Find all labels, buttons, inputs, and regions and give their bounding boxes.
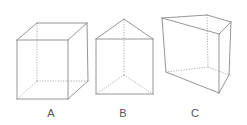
hidden-edge [124, 75, 153, 94]
visible-edge [219, 22, 231, 34]
visible-edge [229, 22, 231, 75]
visible-edge [207, 15, 231, 22]
visible-edge [17, 23, 37, 40]
visible-edge [219, 75, 229, 93]
label-a: A [41, 106, 61, 120]
visible-edge [68, 81, 88, 99]
visible-edge [96, 19, 124, 39]
shape-b-triangular-prism [96, 19, 153, 94]
visible-edge [124, 19, 153, 39]
visible-edge [68, 23, 87, 40]
hidden-edge [208, 67, 229, 75]
label-c: C [185, 106, 205, 120]
hidden-edge [166, 67, 208, 72]
visible-edge [162, 18, 219, 34]
visible-edge [87, 23, 88, 81]
visible-edge [162, 15, 207, 18]
visible-edge [166, 72, 219, 93]
label-b: B [113, 106, 133, 120]
visible-edge [162, 18, 166, 72]
shape-a-cube [17, 23, 88, 99]
hidden-edge [207, 15, 208, 67]
hidden-edge [96, 75, 124, 94]
shape-c-triangular-prism [162, 15, 231, 93]
hidden-edge [17, 81, 37, 99]
